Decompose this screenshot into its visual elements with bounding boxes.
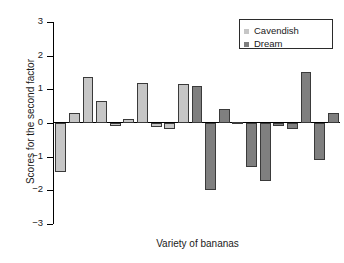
- y-axis-tick-label: −1: [0, 151, 43, 161]
- y-axis-tick-label: 2: [0, 50, 43, 60]
- y-axis-tick: [47, 224, 53, 225]
- bar: [301, 72, 312, 123]
- bar: [69, 113, 80, 123]
- bar: [178, 84, 189, 123]
- y-axis-tick: [47, 22, 53, 23]
- x-axis-label: Variety of bananas: [55, 238, 340, 249]
- y-axis-tick-label: 3: [0, 16, 43, 26]
- bar: [123, 119, 134, 123]
- bar: [232, 122, 243, 125]
- bar: [110, 123, 121, 126]
- bar: [151, 123, 162, 127]
- bar: [287, 123, 298, 129]
- bar: [219, 109, 230, 123]
- bar: [273, 123, 284, 126]
- y-axis-tick-label: 0: [0, 117, 43, 127]
- y-axis-tick-label: 1: [0, 83, 43, 93]
- bar: [246, 123, 257, 167]
- legend-swatch-icon: [244, 29, 249, 34]
- y-axis-tick: [47, 190, 53, 191]
- legend-swatch-icon: [244, 42, 249, 47]
- bar: [260, 123, 271, 181]
- plot-area: [54, 22, 340, 224]
- y-axis-tick: [47, 157, 53, 158]
- legend: CavendishDream: [239, 19, 333, 49]
- bar: [205, 123, 216, 190]
- bar: [314, 123, 325, 160]
- y-axis-tick-label: −2: [0, 184, 43, 194]
- bar: [55, 123, 66, 172]
- figure: Scores for the second factor 3210−1−2−3 …: [0, 0, 344, 263]
- y-axis-tick: [47, 89, 53, 90]
- legend-item: Dream: [244, 38, 283, 50]
- y-axis-tick: [47, 123, 53, 124]
- bar: [83, 77, 94, 123]
- legend-item: Cavendish: [244, 25, 299, 37]
- bar: [328, 113, 339, 123]
- y-axis-tick: [47, 56, 53, 57]
- bar: [164, 123, 175, 129]
- bar: [192, 86, 203, 123]
- bar: [137, 83, 148, 123]
- legend-label: Dream: [254, 39, 283, 49]
- legend-label: Cavendish: [254, 26, 299, 36]
- bar: [96, 101, 107, 123]
- y-axis-tick-label: −3: [0, 218, 43, 228]
